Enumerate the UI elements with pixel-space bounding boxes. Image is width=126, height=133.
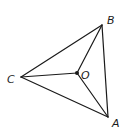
label-o: O	[81, 69, 90, 82]
segment-ob	[77, 25, 102, 73]
triangle-diagram: A B C O	[0, 0, 126, 133]
label-c: C	[7, 73, 15, 86]
segment-ab	[102, 25, 108, 117]
label-a: A	[111, 117, 120, 130]
segment-oc	[21, 73, 77, 77]
label-b: B	[107, 14, 115, 27]
segment-ca	[21, 77, 108, 117]
segment-bc	[21, 25, 102, 77]
edges	[21, 25, 108, 117]
point-o-dot	[75, 71, 79, 75]
